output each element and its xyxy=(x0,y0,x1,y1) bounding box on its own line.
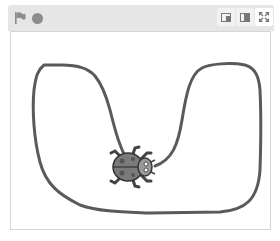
stage-canvas[interactable] xyxy=(10,31,271,230)
pen-drawing xyxy=(0,0,280,241)
ladybug-icon[interactable] xyxy=(111,147,155,187)
